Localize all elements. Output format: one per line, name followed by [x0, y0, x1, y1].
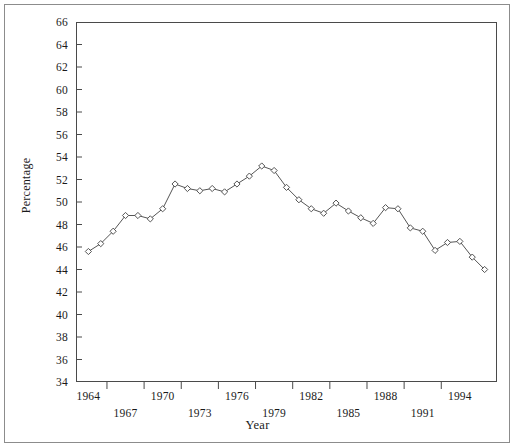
y-tick-label: 40 [42, 309, 68, 321]
y-tick-label: 42 [42, 286, 68, 298]
y-tick-label: 54 [42, 151, 68, 163]
data-point-marker [184, 185, 190, 191]
data-point-marker [432, 247, 438, 253]
data-point-marker [345, 208, 351, 214]
data-point-marker [444, 239, 450, 245]
y-tick-label: 50 [42, 196, 68, 208]
y-tick-label: 60 [42, 84, 68, 96]
y-tick-label: 36 [42, 354, 68, 366]
y-tick-label: 48 [42, 219, 68, 231]
y-tick-label: 56 [42, 129, 68, 141]
data-point-marker [135, 212, 141, 218]
y-tick-label: 62 [42, 61, 68, 73]
data-point-marker [221, 189, 227, 195]
x-tick-label: 1964 [65, 390, 111, 402]
y-axis-ticks [76, 45, 82, 360]
data-point-marker [172, 181, 178, 187]
y-tick-label: 64 [42, 39, 68, 51]
chart-canvas [0, 0, 515, 448]
data-point-marker [209, 185, 215, 191]
y-tick-label: 52 [42, 174, 68, 186]
data-point-marker [395, 206, 401, 212]
y-tick-label: 66 [42, 16, 68, 28]
x-tick-label: 1982 [288, 390, 334, 402]
x-axis-title: Year [0, 418, 515, 433]
y-tick-label: 44 [42, 264, 68, 276]
x-tick-label: 1988 [363, 390, 409, 402]
data-point-marker [234, 181, 240, 187]
data-point-marker [197, 188, 203, 194]
x-axis-ticks [107, 382, 441, 389]
y-tick-label: 46 [42, 241, 68, 253]
x-tick-label: 1994 [437, 390, 483, 402]
y-tick-label: 34 [42, 376, 68, 388]
y-axis-title: Percentage [19, 136, 34, 236]
data-point-marker [358, 215, 364, 221]
data-point-marker [407, 225, 413, 231]
chart-figure: 3436384042444648505254565860626466 19641… [0, 0, 515, 448]
data-point-marker [85, 248, 91, 254]
x-tick-label: 1976 [214, 390, 260, 402]
data-point-marker [420, 228, 426, 234]
y-tick-label: 38 [42, 331, 68, 343]
y-tick-label: 58 [42, 106, 68, 118]
x-tick-label: 1970 [140, 390, 186, 402]
